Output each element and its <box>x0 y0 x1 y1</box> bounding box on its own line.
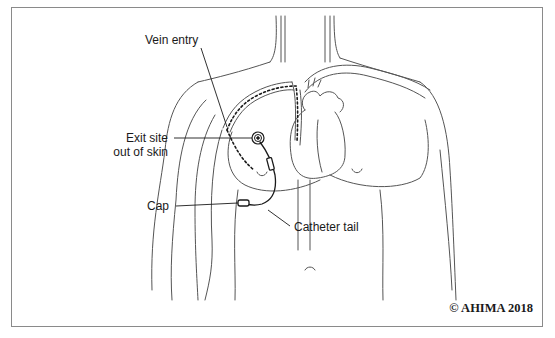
label-catheter-tail: Catheter tail <box>294 220 359 234</box>
label-vein-entry: Vein entry <box>145 33 198 47</box>
chest-anatomy-illustration <box>0 0 555 338</box>
label-exit-site-line1: Exit site <box>100 131 168 145</box>
label-cap: Cap <box>147 199 169 213</box>
copyright-notice: © AHIMA 2018 <box>449 301 533 316</box>
label-exit-site-line2: out of skin <box>100 145 168 159</box>
